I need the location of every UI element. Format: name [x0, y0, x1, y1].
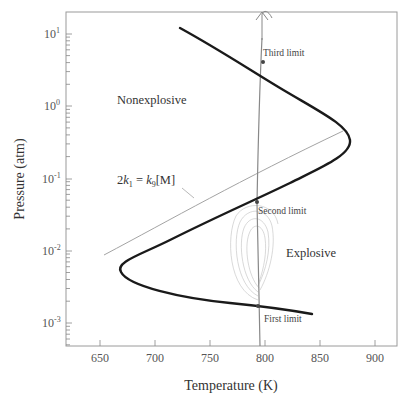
x-tick-850: 850 [311, 351, 329, 365]
y-axis-ticks [66, 34, 72, 345]
x-tick-700: 700 [146, 351, 164, 365]
explosion-limit-curve [120, 28, 350, 314]
equation-label: 2k1 = k9[M] [117, 173, 175, 189]
y-tick-10-0: 100 [44, 98, 60, 113]
x-tick-labels: 650 700 750 800 850 900 [91, 351, 384, 365]
x-tick-900: 900 [366, 351, 384, 365]
third-limit-point [261, 60, 265, 64]
trajectory-arrowhead-icon [256, 11, 272, 40]
explosive-label: Explosive [286, 246, 336, 260]
x-tick-800: 800 [256, 351, 274, 365]
x-axis-ticks [100, 340, 375, 346]
first-limit-point [256, 304, 260, 308]
y-tick-10-minus1: 10-1 [42, 171, 61, 186]
y-axis-title: Pressure (atm) [12, 138, 28, 220]
third-limit-label: Third limit [263, 48, 305, 58]
x-tick-650: 650 [91, 351, 109, 365]
first-limit-label: First limit [264, 314, 302, 324]
crossover-line-2k1-k9M [104, 131, 343, 255]
explosion-limits-chart: 650 700 750 800 850 900 101 100 10-1 10-… [0, 0, 408, 402]
y-tick-labels: 101 100 10-1 10-2 10-3 [42, 26, 61, 330]
second-limit-label: Second limit [258, 206, 307, 216]
equation-leader-line [182, 188, 194, 198]
trajectory-loops [231, 206, 278, 300]
nonexplosive-label: Nonexplosive [117, 93, 187, 107]
second-limit-point [255, 200, 259, 204]
x-axis-title: Temperature (K) [184, 378, 278, 394]
y-tick-10-minus3: 10-3 [42, 315, 61, 330]
y-tick-10-1: 101 [44, 26, 60, 41]
x-tick-750: 750 [201, 351, 219, 365]
y-tick-10-minus2: 10-2 [42, 243, 61, 258]
plot-frame [66, 12, 397, 346]
